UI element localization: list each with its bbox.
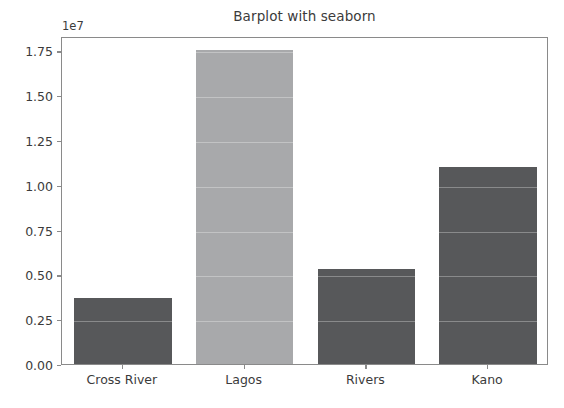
- y-tick-label: 0.25: [5, 313, 53, 328]
- y-tick-label: 1.00: [5, 178, 53, 193]
- bars-layer: [62, 38, 547, 364]
- y-tick-mark: [57, 231, 61, 232]
- bar: [318, 269, 415, 364]
- chart-title: Barplot with seaborn: [61, 8, 548, 24]
- figure-canvas: Barplot with seaborn 1e7 0.000.250.500.7…: [0, 0, 564, 408]
- x-tick-mark: [365, 365, 366, 369]
- y-tick-label: 1.75: [5, 44, 53, 59]
- y-tick-label: 0.50: [5, 268, 53, 283]
- y-tick-mark: [57, 51, 61, 52]
- x-tick-mark: [122, 365, 123, 369]
- x-tick-label: Cross River: [87, 372, 158, 387]
- bar: [439, 167, 536, 364]
- y-tick-label: 1.25: [5, 133, 53, 148]
- y-tick-mark: [57, 141, 61, 142]
- bar: [74, 298, 171, 364]
- bar: [196, 50, 293, 364]
- x-axis-tick-marks: [61, 365, 548, 370]
- y-tick-mark: [57, 320, 61, 321]
- x-tick-mark: [487, 365, 488, 369]
- x-axis-tick-labels: Cross RiverLagosRiversKano: [61, 372, 548, 396]
- plot-area: [61, 37, 548, 365]
- x-tick-label: Kano: [472, 372, 503, 387]
- y-tick-label: 1.50: [5, 89, 53, 104]
- y-tick-mark: [57, 275, 61, 276]
- x-tick-mark: [244, 365, 245, 369]
- y-axis-tick-labels: 0.000.250.500.751.001.251.501.75: [5, 37, 53, 365]
- x-tick-label: Lagos: [225, 372, 262, 387]
- y-tick-mark: [57, 186, 61, 187]
- y-tick-label: 0.00: [5, 358, 53, 373]
- y-axis-offset-label: 1e7: [62, 19, 84, 33]
- x-tick-label: Rivers: [346, 372, 385, 387]
- y-tick-label: 0.75: [5, 223, 53, 238]
- y-tick-mark: [57, 96, 61, 97]
